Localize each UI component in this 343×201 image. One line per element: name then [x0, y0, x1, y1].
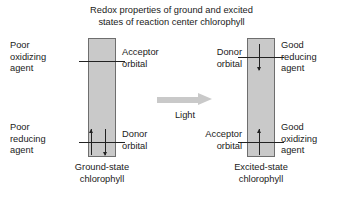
- excited-state-donor-orbital: [238, 44, 284, 70]
- excited-state-top-label: Good reducing agent: [281, 40, 343, 75]
- orbital-level-line: [238, 142, 284, 143]
- redox-properties-diagram: Redox properties of ground and excited s…: [0, 0, 343, 201]
- electron-up-arrow-icon: [259, 129, 260, 155]
- excited-state-acceptor-orbital: [238, 129, 284, 155]
- ground-state-donor-orbital-label: Donor orbital: [122, 129, 182, 152]
- electron-down-arrow-icon: [105, 129, 106, 155]
- excited-state-acceptor-orbital-label: Acceptor orbital: [186, 129, 242, 152]
- ground-state-top-label: Poor oxidizing agent: [10, 40, 80, 75]
- ground-state-donor-orbital: [79, 129, 125, 155]
- electron-down-arrow-icon: [259, 44, 260, 70]
- ground-state-caption: Ground-state chlorophyll: [54, 162, 150, 185]
- diagram-title: Redox properties of ground and excited s…: [0, 5, 343, 28]
- orbital-level-line: [79, 142, 125, 143]
- excited-state-bottom-label: Good oxidizing agent: [281, 122, 343, 157]
- orbital-level-line: [238, 57, 284, 58]
- excited-state-donor-orbital-label: Donor orbital: [186, 47, 242, 70]
- light-arrow-icon: [157, 93, 213, 106]
- ground-state-acceptor-orbital-label: Acceptor orbital: [122, 47, 182, 70]
- ground-state-bottom-label: Poor reducing agent: [10, 122, 80, 157]
- excited-state-caption: Excited-state chlorophyll: [213, 162, 309, 185]
- ground-state-acceptor-orbital: [79, 48, 125, 74]
- light-label: Light: [152, 110, 218, 122]
- orbital-level-line: [79, 61, 125, 62]
- electron-up-arrow-icon: [91, 129, 92, 155]
